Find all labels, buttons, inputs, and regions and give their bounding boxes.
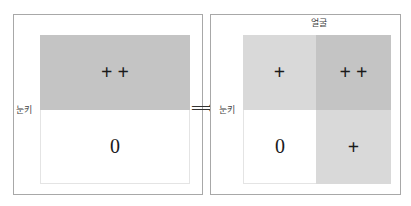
left-top-symbol: + + — [101, 61, 129, 84]
right-bottom-right-symbol: + — [348, 136, 359, 159]
right-top-left-cell: + — [243, 35, 316, 110]
right-bottom-left-symbol: 0 — [275, 135, 285, 158]
right-column-label: 얼굴 — [311, 16, 327, 29]
right-top-left-symbol: + — [274, 61, 285, 84]
right-top-right-cell: + + — [316, 35, 391, 110]
left-bottom-symbol: 0 — [110, 135, 120, 158]
left-bottom-cell: 0 — [40, 110, 190, 184]
right-row-label: 눈키 — [219, 103, 235, 116]
right-bottom-left-cell: 0 — [243, 110, 316, 184]
left-top-cell: + + — [40, 35, 190, 110]
right-bottom-right-cell: + — [316, 110, 391, 184]
left-row-label: 눈키 — [16, 103, 32, 116]
right-top-right-symbol: + + — [340, 61, 368, 84]
